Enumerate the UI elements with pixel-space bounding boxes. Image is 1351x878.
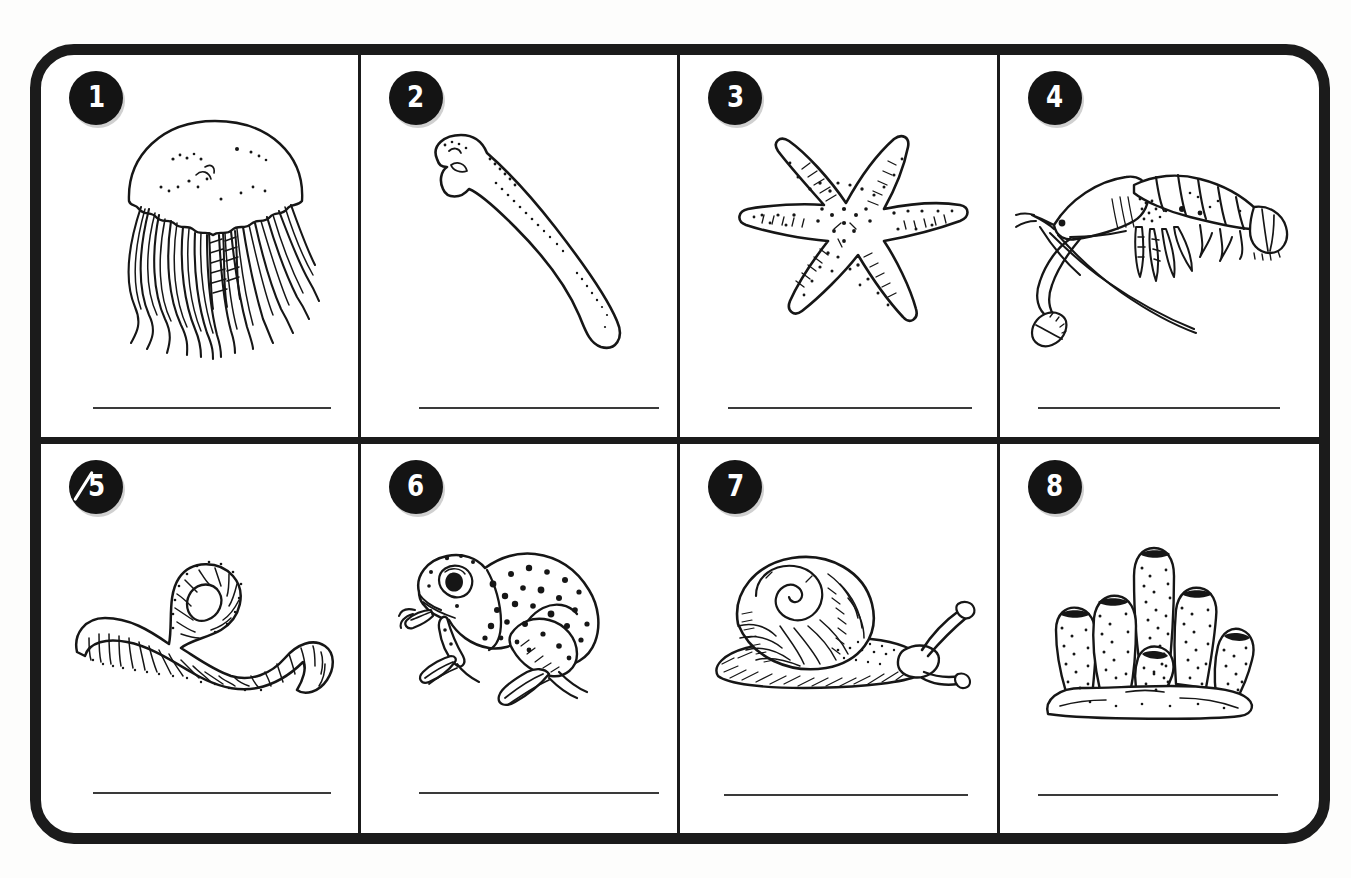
cell-number-badge-7: 7 xyxy=(708,460,762,514)
cell-number-label: 6 xyxy=(407,471,424,501)
cell-number-label: 8 xyxy=(1046,471,1063,501)
jellyfish-icon xyxy=(101,103,331,363)
answer-line-2[interactable] xyxy=(419,407,659,409)
cell-number-label: 2 xyxy=(407,82,424,112)
worksheet-cell-7[interactable]: 7 xyxy=(680,444,1000,833)
tube-sponge-icon xyxy=(1030,506,1260,726)
worksheet-cell-5[interactable]: 5 xyxy=(41,444,361,833)
worksheet-cell-6[interactable]: 6 xyxy=(361,444,681,833)
shrimp-icon xyxy=(1014,141,1304,351)
worksheet-cell-2[interactable]: 2 xyxy=(361,55,681,444)
earthworm-icon xyxy=(63,534,353,714)
answer-line-1[interactable] xyxy=(93,407,331,409)
answer-line-5[interactable] xyxy=(93,792,331,794)
frog-icon xyxy=(401,522,641,712)
answer-line-4[interactable] xyxy=(1038,407,1280,409)
tadpole-icon xyxy=(391,115,661,365)
snail-icon xyxy=(708,538,988,708)
cell-number-label: 3 xyxy=(726,82,743,112)
answer-line-3[interactable] xyxy=(728,407,972,409)
worksheet-cell-3[interactable]: 3 xyxy=(680,55,1000,444)
starfish-icon xyxy=(698,117,988,337)
answer-line-8[interactable] xyxy=(1038,794,1278,796)
cell-number-label: 4 xyxy=(1046,82,1063,112)
cell-number-badge-6: 6 xyxy=(389,460,443,514)
cell-number-badge-5: 5 xyxy=(69,460,123,514)
cell-number-badge-4: 4 xyxy=(1028,71,1082,125)
cell-number-label: 7 xyxy=(726,471,743,501)
worksheet-cell-8[interactable]: 8 xyxy=(1000,444,1320,833)
worksheet-cell-4[interactable]: 4 xyxy=(1000,55,1320,444)
answer-line-6[interactable] xyxy=(419,792,659,794)
cell-number-label: 5 xyxy=(87,471,104,501)
worksheet-cell-1[interactable]: 1 xyxy=(41,55,361,444)
answer-line-7[interactable] xyxy=(724,794,968,796)
worksheet-grid: 1 xyxy=(41,55,1319,833)
